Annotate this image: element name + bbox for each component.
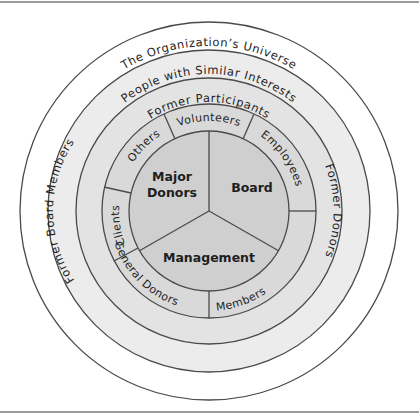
label-management: Management (163, 250, 255, 265)
label-major-donors-line2: Donors (147, 185, 197, 200)
organization-universe-diagram: The Organization’s Universe People with … (0, 0, 419, 420)
label-major-donors-line1: Major (152, 169, 193, 184)
label-board: Board (231, 180, 273, 195)
